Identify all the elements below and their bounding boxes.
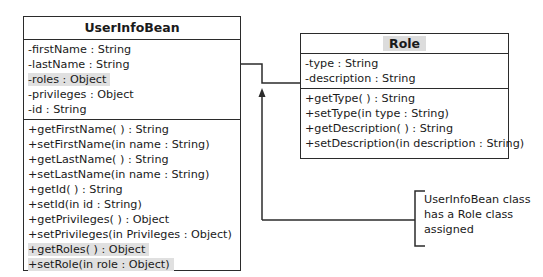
annotation-line: assigned — [424, 222, 531, 237]
association-line — [241, 64, 300, 83]
annotation-line: has a Role class — [424, 207, 531, 222]
annotation-line: UserInfoBean class — [424, 192, 531, 207]
arrowhead-icon — [259, 88, 266, 97]
annotation-note: UserInfoBean class has a Role class assi… — [424, 192, 531, 237]
